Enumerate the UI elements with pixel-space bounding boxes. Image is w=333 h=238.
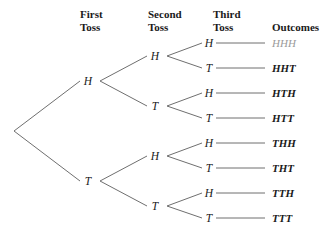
coin-toss-tree-diagram: FirstTossSecondTossThirdToss Outcomes HT…	[0, 0, 333, 238]
edge-t-to-tt	[100, 181, 147, 206]
header-third-toss: ThirdToss	[213, 8, 241, 33]
edge-th-to-tht	[167, 156, 202, 168]
first-toss-node-1-t: T	[85, 175, 91, 187]
header-second-toss-line2: Toss	[148, 21, 182, 34]
edge-h-to-ht	[100, 81, 147, 106]
outcome-ttt: TTT	[272, 212, 292, 224]
third-toss-node-3-t: T	[206, 112, 212, 124]
edge-ht-to-hth	[167, 93, 202, 106]
outcome-hht: HHT	[272, 62, 296, 74]
third-toss-node-0-h: H	[205, 37, 213, 49]
third-toss-node-6-h: H	[205, 187, 213, 199]
outcome-hhh: HHH	[272, 37, 296, 49]
second-toss-node-3-t: T	[152, 200, 158, 212]
third-toss-node-5-t: T	[206, 162, 212, 174]
third-toss-node-2-h: H	[205, 87, 213, 99]
header-first-toss-line2: Toss	[80, 21, 103, 34]
edge-hh-to-hht	[167, 56, 202, 68]
edge-t-to-th	[100, 156, 147, 181]
header-second-toss: SecondToss	[148, 8, 182, 33]
second-toss-node-1-t: T	[152, 100, 158, 112]
third-toss-node-1-t: T	[206, 62, 212, 74]
outcome-hth: HTH	[272, 87, 296, 99]
header-outcomes-line2: Outcomes	[272, 21, 319, 34]
outcome-htt: HTT	[272, 112, 294, 124]
third-toss-node-4-h: H	[205, 137, 213, 149]
second-toss-node-0-h: H	[151, 50, 159, 62]
third-toss-node-7-t: T	[206, 212, 212, 224]
edge-hh-to-hhh	[167, 43, 202, 56]
header-third-toss-line2: Toss	[213, 21, 241, 34]
outcome-tht: THT	[272, 162, 294, 174]
second-toss-node-2-h: H	[151, 150, 159, 162]
header-first-toss: FirstToss	[80, 8, 103, 33]
edge-tt-to-ttt	[167, 206, 202, 218]
edge-ht-to-htt	[167, 106, 202, 118]
edge-root-to-t	[14, 131, 80, 181]
header-first-toss-line1: First	[80, 8, 103, 21]
edge-tt-to-tth	[167, 193, 202, 206]
header-outcomes-line1	[272, 8, 319, 21]
outcome-thh: THH	[272, 137, 296, 149]
header-third-toss-line1: Third	[213, 8, 241, 21]
edge-th-to-thh	[167, 143, 202, 156]
edge-h-to-hh	[100, 56, 147, 81]
outcome-tth: TTH	[272, 187, 294, 199]
header-second-toss-line1: Second	[148, 8, 182, 21]
edge-root-to-h	[14, 81, 80, 131]
first-toss-node-0-h: H	[84, 75, 92, 87]
header-outcomes: Outcomes	[272, 8, 319, 33]
